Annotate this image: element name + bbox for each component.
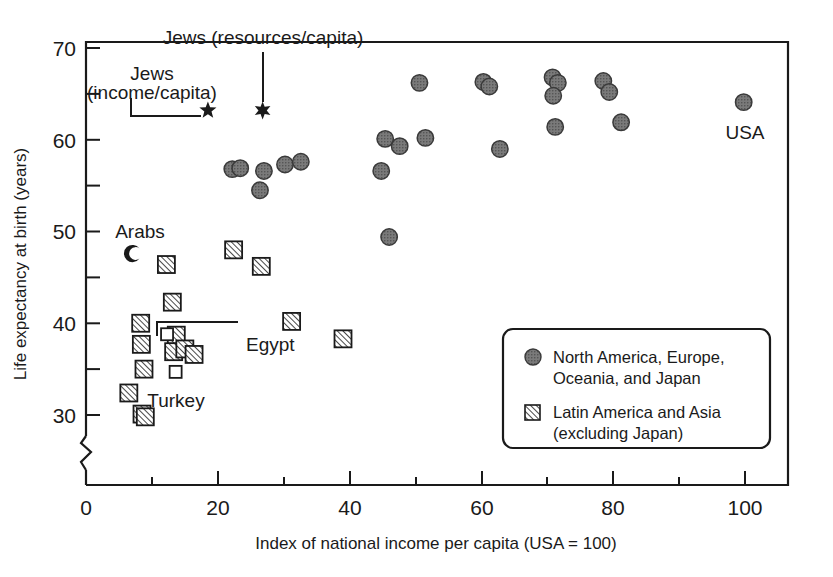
data-point-circle	[411, 75, 427, 91]
series-3	[161, 328, 173, 340]
legend-label-2-line2: (excluding Japan)	[553, 424, 683, 442]
data-point-hatched-square	[283, 313, 300, 330]
annotation-usa: USA	[725, 122, 764, 143]
data-point-hatched-square	[186, 346, 203, 363]
data-point-hatched-square	[253, 258, 270, 275]
legend-label-2-line1: Latin America and Asia	[553, 403, 722, 421]
data-point-hatched-square	[135, 361, 152, 378]
data-point-hatched-square	[133, 336, 150, 353]
legend-hatched-square-icon	[525, 405, 540, 420]
data-point-circle	[232, 160, 248, 176]
data-point-hatched-square	[225, 241, 242, 258]
data-point-circle	[735, 94, 751, 110]
legend-circle-icon	[525, 349, 541, 365]
annotation-egypt: Egypt	[246, 334, 295, 355]
y-tick-label-30: 30	[53, 404, 76, 427]
data-point-hatched-square	[335, 330, 352, 347]
annotation-arabs: Arabs	[115, 221, 165, 242]
legend-label-1-line2: Oceania, and Japan	[553, 369, 701, 387]
y-axis-title: Life expectancy at birth (years)	[11, 148, 30, 380]
data-point-circle	[492, 141, 508, 157]
data-point-circle	[391, 138, 407, 154]
scatter-chart: 70 60 50 40 30 0 20 40 60 80 100 Index o…	[0, 0, 833, 577]
data-point-circle	[613, 114, 629, 130]
legend: North America, Europe, Oceania, and Japa…	[503, 329, 770, 448]
annotation-jews-income-line2: (income/capita)	[87, 82, 217, 103]
y-tick-label-40: 40	[53, 312, 76, 335]
x-tick-label-40: 40	[338, 496, 361, 519]
x-tick-label-0: 0	[80, 496, 92, 519]
data-point-circle	[601, 84, 617, 100]
legend-label-1-line1: North America, Europe,	[553, 348, 725, 366]
data-point-circle	[293, 154, 309, 170]
data-point-circle	[256, 163, 272, 179]
annotation-turkey: Turkey	[147, 390, 205, 411]
y-tick-label-60: 60	[53, 129, 76, 152]
y-tick-label-70: 70	[53, 37, 76, 60]
data-point-circle	[373, 163, 389, 179]
data-point-circle	[252, 182, 268, 198]
series-2	[170, 366, 182, 378]
annotation-jews-income-line1: Jews	[130, 63, 173, 84]
y-tick-label-50: 50	[53, 220, 76, 243]
chart-root: 70 60 50 40 30 0 20 40 60 80 100 Index o…	[0, 0, 833, 577]
annotation-jews-resources: Jews (resources/capita)	[163, 27, 364, 48]
x-tick-label-60: 60	[470, 496, 493, 519]
x-axis-title: Index of national income per capita (USA…	[255, 534, 616, 553]
x-tick-label-20: 20	[206, 496, 229, 519]
data-point-circle	[381, 229, 397, 245]
data-point-hatched-square	[164, 294, 181, 311]
data-point-circle	[481, 78, 497, 94]
data-point-hatched-square	[158, 256, 175, 273]
data-point-hatched-square	[132, 315, 149, 332]
x-tick-label-80: 80	[601, 496, 624, 519]
data-point-circle	[545, 88, 561, 104]
data-point-open-square	[161, 328, 173, 340]
data-point-circle	[547, 119, 563, 135]
data-point-circle	[277, 156, 293, 172]
data-point-open-square	[170, 366, 182, 378]
data-point-circle	[417, 130, 433, 146]
x-tick-label-100: 100	[727, 496, 762, 519]
data-point-hatched-square	[120, 384, 137, 401]
